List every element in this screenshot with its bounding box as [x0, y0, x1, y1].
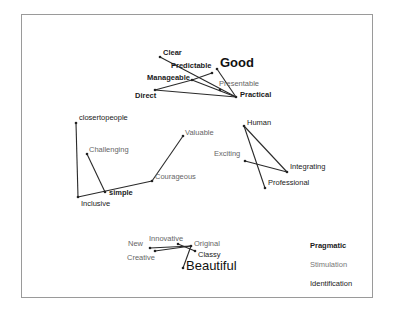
node-challenging: Challenging — [89, 146, 129, 154]
node-courageous: Courageous — [155, 173, 196, 181]
node-human: Human — [247, 119, 271, 127]
node-integrating: Integrating — [290, 163, 325, 171]
node-presentable: Presentable — [219, 80, 259, 88]
node-exciting: Exciting — [214, 150, 240, 158]
node-professional: Professional — [268, 179, 309, 187]
node-inclusive: Inclusive — [81, 200, 110, 208]
node-practical: Practical — [240, 91, 271, 99]
legend-stimulation: Stimulation — [310, 261, 347, 269]
node-beautiful: Beautiful — [186, 259, 237, 272]
node-simple: simple — [109, 189, 133, 197]
legend-identification: Identification — [310, 280, 352, 288]
node-creative: Creative — [127, 254, 155, 262]
node-innovative: Innovative — [149, 235, 183, 243]
node-valuable: Valuable — [185, 129, 214, 137]
legend-pragmatic: Pragmatic — [310, 242, 346, 250]
node-good: Good — [220, 56, 254, 69]
node-new: New — [128, 240, 143, 248]
node-clear: Clear — [163, 49, 182, 57]
node-original: Original — [194, 240, 220, 248]
node-direct: Direct — [135, 92, 156, 100]
node-closertopeople: closertopeople — [79, 114, 128, 122]
node-predictable: Predictable — [171, 62, 211, 70]
node-manageable: Manageable — [147, 74, 190, 82]
